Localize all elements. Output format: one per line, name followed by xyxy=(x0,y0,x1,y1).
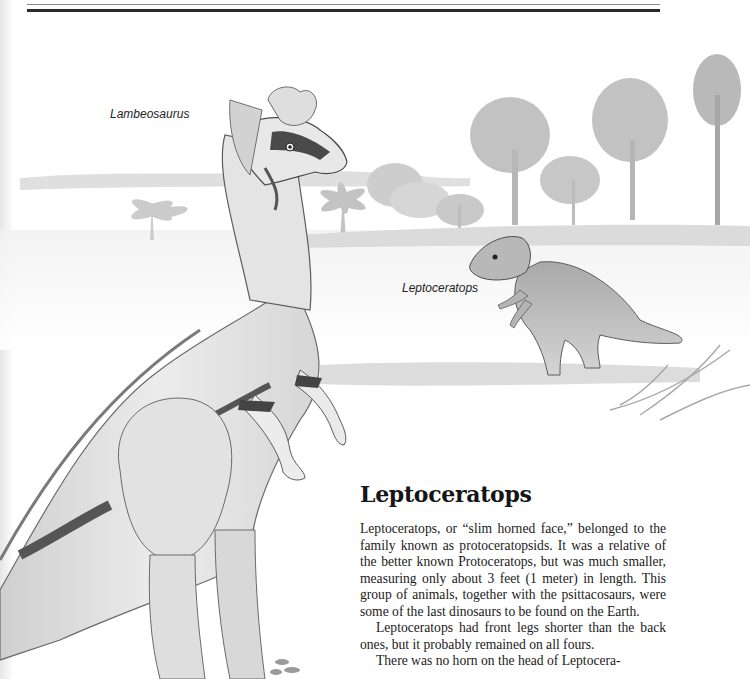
article-body: Leptoceratops, or “slim horned face,” be… xyxy=(360,521,666,670)
small-plant-bottom xyxy=(270,659,300,675)
article-leptoceratops: Leptoceratops Leptoceratops, or “slim ho… xyxy=(360,480,666,670)
paragraph-1: Leptoceratops, or “slim horned face,” be… xyxy=(360,521,666,620)
article-title: Leptoceratops xyxy=(360,480,666,508)
paragraph-3: There was no horn on the head of Leptoce… xyxy=(360,653,666,670)
caption-lambeosaurus: Lambeosaurus xyxy=(110,107,189,121)
paragraph-2: Leptoceratops had front legs shorter tha… xyxy=(360,620,666,653)
caption-leptoceratops: Leptoceratops xyxy=(402,281,478,295)
